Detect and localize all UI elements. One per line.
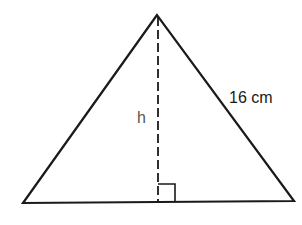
height-label: h: [137, 110, 146, 126]
side-length-label: 16 cm: [229, 90, 273, 106]
triangle-canvas: [0, 0, 302, 225]
right-angle-marker: [158, 184, 175, 202]
